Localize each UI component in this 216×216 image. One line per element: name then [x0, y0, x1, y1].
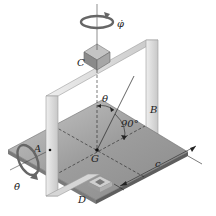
- point-a: [49, 149, 52, 152]
- diagram-canvas: φ̇ C θ 90° G B: [0, 0, 216, 216]
- ninety-degree-label: 90°: [121, 118, 139, 129]
- point-d-label: D: [77, 194, 86, 205]
- rotating-plate-diagram: φ̇ C θ 90° G B: [0, 0, 216, 216]
- point-g-label: G: [91, 153, 99, 164]
- point-c-label: C: [77, 57, 85, 68]
- theta-dot-label: θ̇: [14, 181, 20, 192]
- center-of-mass-point: [95, 148, 99, 152]
- dimension-c-label: c: [155, 158, 161, 169]
- phi-dot-label: φ̇: [117, 18, 124, 29]
- point-b-label: B: [149, 104, 157, 115]
- theta-label: θ: [102, 93, 108, 104]
